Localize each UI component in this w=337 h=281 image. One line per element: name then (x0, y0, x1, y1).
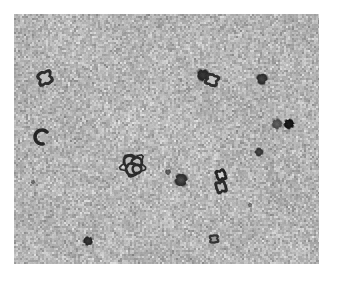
figure-root (0, 0, 337, 281)
micrograph-panel (14, 14, 319, 264)
micrograph-image (14, 14, 319, 264)
